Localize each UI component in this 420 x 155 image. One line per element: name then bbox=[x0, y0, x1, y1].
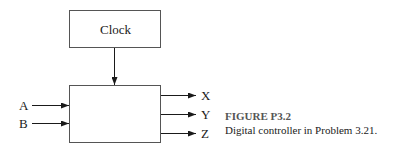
input-label-b: B bbox=[19, 117, 28, 130]
output-label-y: Y bbox=[201, 108, 210, 121]
caption-title: FIGURE P3.2 bbox=[225, 109, 377, 123]
controller-box bbox=[70, 86, 161, 143]
input-label-a: A bbox=[19, 99, 28, 112]
output-label-x: X bbox=[201, 89, 210, 102]
caption-text: Digital controller in Problem 3.21. bbox=[225, 123, 377, 137]
output-label-z: Z bbox=[201, 127, 209, 140]
figure-caption: FIGURE P3.2 Digital controller in Proble… bbox=[225, 109, 377, 137]
clock-label: Clock bbox=[100, 23, 131, 36]
